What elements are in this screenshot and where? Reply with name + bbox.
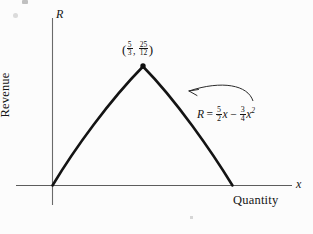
equation-annotation: R=52x−34x2 (197, 106, 255, 124)
equation-operator: − (230, 108, 237, 120)
equation-equals: = (207, 108, 214, 120)
vertex-x-denominator: 3 (127, 49, 133, 57)
vertex-point-marker (140, 63, 145, 68)
callout-arrowhead-icon (189, 90, 199, 96)
vertex-y-fraction: 2512 (139, 41, 149, 58)
equation-term2-denominator: 4 (240, 115, 246, 123)
x-axis-symbol: x (296, 178, 301, 190)
equation-term1-variable: x (223, 108, 228, 120)
vertex-open-paren: ( (122, 42, 126, 57)
equation-term1-fraction: 52 (216, 106, 222, 124)
revenue-curve (53, 67, 233, 186)
x-axis-title: Quantity (233, 194, 278, 207)
vertex-comma: , (133, 45, 136, 56)
vertex-coordinate-label: (53, 2512) (122, 41, 153, 58)
equation-term1-denominator: 2 (216, 115, 222, 123)
equation-term2-fraction: 34 (240, 106, 246, 124)
vertex-y-denominator: 12 (139, 49, 149, 57)
equation-term2-exponent: 2 (251, 106, 255, 115)
equation-lhs: R (197, 108, 204, 120)
revenue-parabola-figure: R x Revenue Quantity (53, 2512) R=52x−34… (0, 0, 313, 234)
vertex-x-fraction: 53 (127, 41, 133, 58)
callout-arrow-line (189, 85, 253, 101)
y-axis-title: Revenue (0, 55, 12, 135)
vertex-close-paren: ) (149, 42, 153, 57)
y-axis-symbol: R (56, 8, 63, 20)
